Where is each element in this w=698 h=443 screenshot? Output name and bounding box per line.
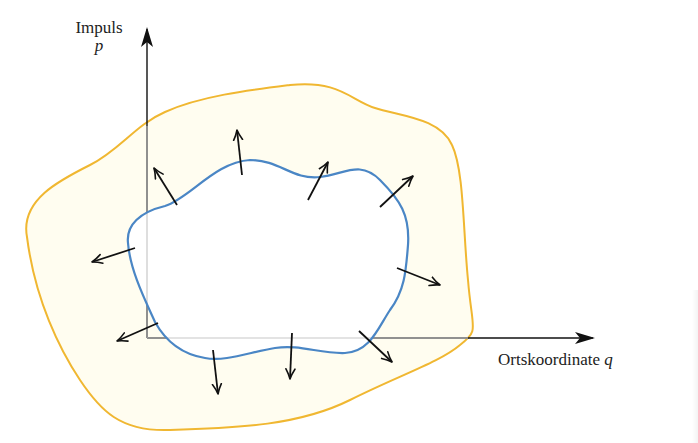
q-axis-title: Ortskoordinate	[498, 350, 600, 369]
phase-space-diagram	[0, 0, 698, 443]
scan-edge-strip	[692, 290, 698, 443]
q-axis-variable: q	[604, 350, 613, 369]
p-axis-title: Impuls	[66, 19, 132, 37]
p-axis-variable: p	[66, 37, 132, 55]
q-axis-label: Ortskoordinate q	[498, 351, 613, 369]
p-axis-label: Impuls p	[66, 19, 132, 55]
